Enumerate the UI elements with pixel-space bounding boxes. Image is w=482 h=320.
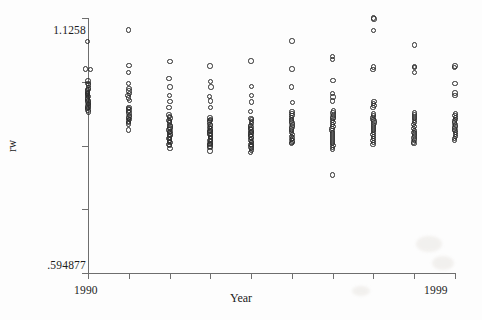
data-point <box>289 141 294 146</box>
data-point <box>249 84 254 89</box>
data-point <box>330 147 335 152</box>
data-point <box>167 93 172 98</box>
data-point <box>289 66 294 71</box>
x-axis-tick <box>88 273 89 279</box>
data-point <box>208 79 213 84</box>
data-point <box>208 84 213 89</box>
x-axis-tick <box>251 273 252 279</box>
data-point <box>371 28 376 33</box>
data-point <box>411 141 416 146</box>
data-point <box>370 105 375 110</box>
data-point <box>248 109 253 114</box>
data-point <box>452 65 457 70</box>
x-axis-tick <box>455 273 456 279</box>
data-point <box>249 99 254 104</box>
data-point <box>85 39 90 44</box>
scatter-plot-figure: 1.1258 .594877 1990 1999 Year rw <box>0 0 482 320</box>
y-axis-min-label: .594877 <box>47 259 86 271</box>
x-axis-tick <box>292 273 293 279</box>
data-point <box>249 93 254 98</box>
data-point <box>166 105 171 110</box>
data-point <box>207 63 212 68</box>
data-point <box>371 16 376 21</box>
data-point <box>127 98 132 103</box>
data-point <box>207 148 212 153</box>
scan-artifact <box>416 236 442 252</box>
data-point <box>330 57 335 62</box>
data-point <box>370 142 375 147</box>
data-point <box>330 172 335 177</box>
y-axis-max-label: 1.1258 <box>53 24 86 36</box>
data-point <box>126 63 131 68</box>
data-point <box>88 67 93 72</box>
x-axis-tick <box>210 273 211 279</box>
data-point <box>167 59 172 64</box>
data-point <box>126 27 131 32</box>
y-axis-tick <box>82 18 88 19</box>
x-axis-line <box>88 273 456 274</box>
data-point <box>126 121 131 126</box>
y-axis-tick <box>82 209 88 210</box>
y-axis-tick <box>82 146 88 147</box>
plot-area <box>88 18 455 273</box>
data-point <box>167 146 172 151</box>
data-point <box>452 81 457 86</box>
data-point <box>330 98 335 103</box>
x-axis-tick <box>333 273 334 279</box>
x-axis-tick <box>414 273 415 279</box>
data-point <box>289 38 294 43</box>
data-point <box>289 84 294 89</box>
data-point <box>167 84 172 89</box>
scan-artifact <box>352 286 370 296</box>
y-axis-title: rw <box>6 140 18 152</box>
data-point <box>208 105 213 110</box>
x-axis-title: Year <box>0 291 482 306</box>
data-point <box>86 109 91 114</box>
data-point <box>330 78 335 83</box>
scan-artifact <box>432 256 454 270</box>
data-point <box>126 127 131 132</box>
data-point <box>412 70 417 75</box>
data-point <box>248 150 253 155</box>
data-point <box>208 98 213 103</box>
data-point <box>452 138 457 143</box>
data-point <box>248 58 253 63</box>
data-point <box>126 70 131 75</box>
x-axis-tick <box>129 273 130 279</box>
x-axis-tick <box>373 273 374 279</box>
data-point <box>370 67 375 72</box>
x-axis-tick <box>170 273 171 279</box>
data-point <box>167 99 172 104</box>
data-point <box>452 93 457 98</box>
data-point <box>290 100 295 105</box>
data-point <box>412 42 417 47</box>
data-point <box>166 76 171 81</box>
